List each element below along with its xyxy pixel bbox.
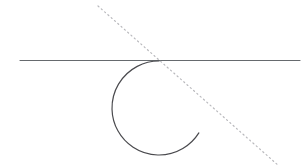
geometry-diagram (0, 0, 308, 166)
geometry-figure-canvas (0, 0, 308, 166)
diagram-background (0, 0, 308, 166)
